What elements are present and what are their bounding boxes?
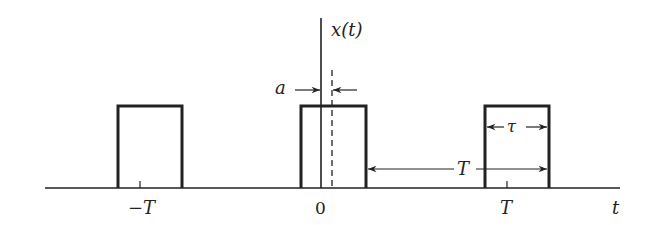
pulse-width-label: τ: [507, 117, 517, 136]
period-label: T: [457, 158, 471, 179]
tick-label-zero: 0: [315, 198, 326, 218]
offset-label: a: [275, 77, 286, 98]
pulse-train-diagram: −T 0 T x(t) t a τ T: [0, 0, 655, 225]
pulse-minus-T: [118, 106, 182, 188]
signal-label: x(t): [331, 19, 362, 40]
tick-label-minus-T: −T: [128, 197, 157, 218]
tick-label-T: T: [500, 197, 514, 218]
pulse-T: [485, 106, 549, 188]
pulse-zero: [301, 106, 366, 188]
time-axis-label: t: [612, 197, 620, 218]
